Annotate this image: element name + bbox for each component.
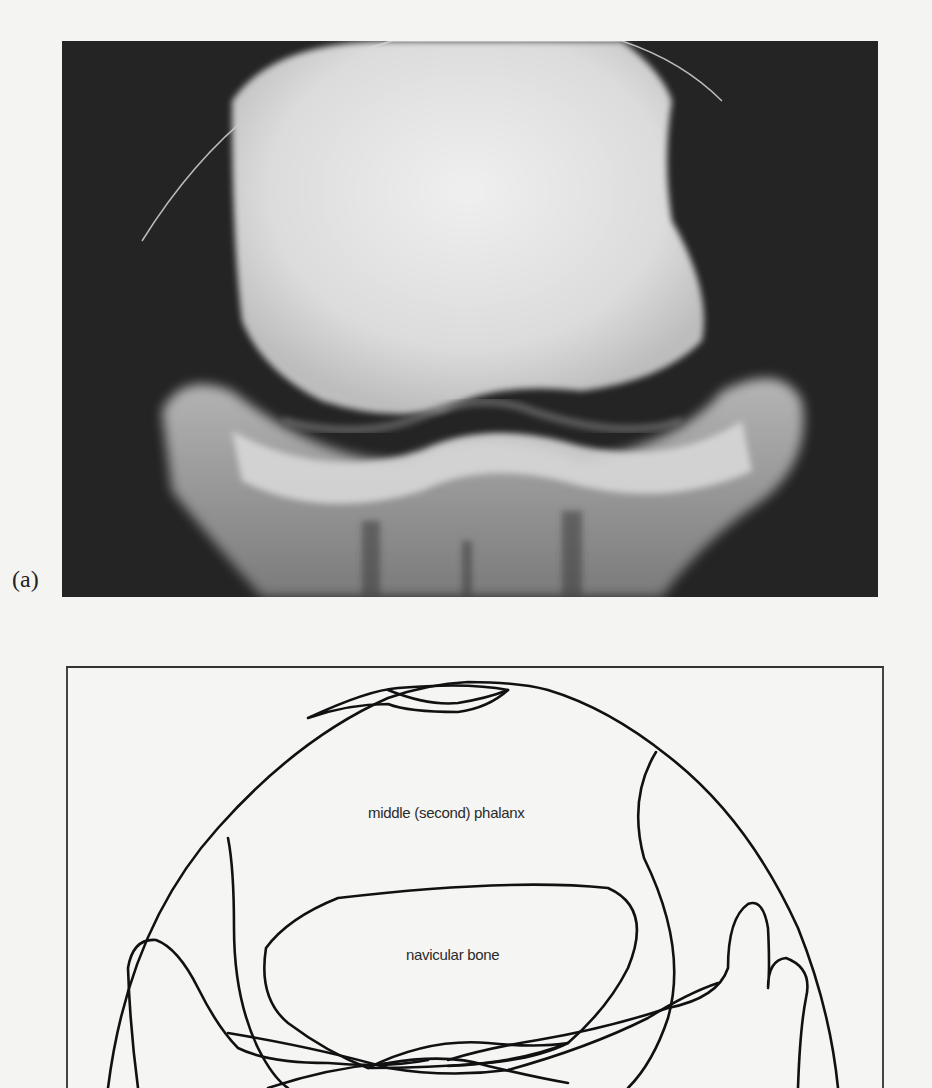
crossing-curve-a [228,983,718,1074]
navicular-outline [264,885,637,1068]
panel-label-a: (a) [12,566,39,593]
radiograph-image [62,41,878,597]
top-lens-outer [308,685,508,718]
tracing-outlines [68,668,882,1088]
label-navicular-bone: navicular bone [406,946,499,963]
label-middle-phalanx: middle (second) phalanx [368,804,525,821]
tracing-diagram: middle (second) phalanx navicular bone [66,666,884,1088]
radiograph-photo [62,41,878,597]
middle-phalanx-shadow [232,41,704,414]
middle-phalanx-left [228,838,288,1088]
